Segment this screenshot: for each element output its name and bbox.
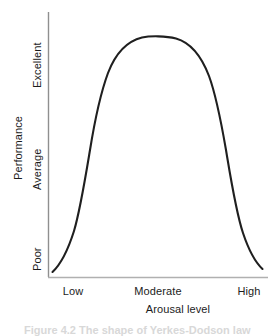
x-tick-label-low: Low	[48, 285, 98, 297]
x-axis-title: Arousal level	[0, 303, 280, 315]
y-axis-title: Performance	[13, 116, 24, 180]
performance-curve	[53, 36, 263, 272]
figure-caption-clip: Figure 4.2 The shape of Yerkes-Dodson la…	[0, 326, 280, 336]
y-tick-label-excellent: Excellent	[32, 42, 43, 88]
y-tick-label-average: Average	[32, 149, 43, 190]
y-tick-label-poor: Poor	[32, 247, 43, 271]
x-tick-label-moderate: Moderate	[126, 285, 190, 297]
figure-caption: Figure 4.2 The shape of Yerkes-Dodson la…	[24, 326, 251, 336]
x-tick-label-high: High	[224, 285, 274, 297]
figure-container: Excellent Average Poor Performance Low M…	[0, 0, 280, 336]
